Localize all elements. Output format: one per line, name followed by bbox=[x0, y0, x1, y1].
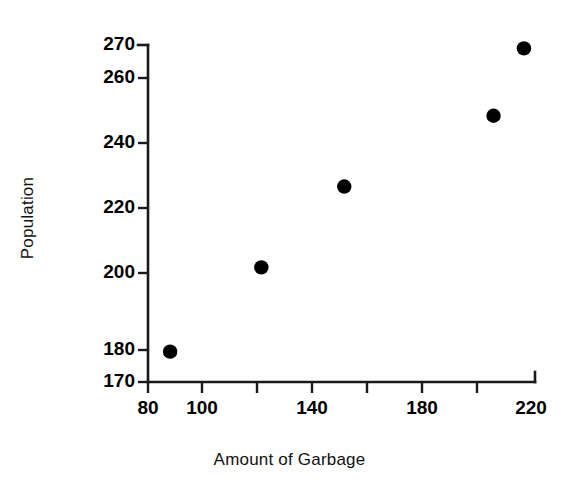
plot-area bbox=[0, 0, 579, 504]
data-point bbox=[163, 344, 177, 358]
data-point bbox=[486, 109, 500, 123]
scatter-plot-figure: Population 270 260 240 220 200 180 170 8… bbox=[0, 0, 579, 504]
data-series bbox=[163, 41, 531, 359]
data-point bbox=[517, 41, 531, 55]
data-point bbox=[254, 260, 268, 274]
data-point bbox=[337, 179, 351, 193]
